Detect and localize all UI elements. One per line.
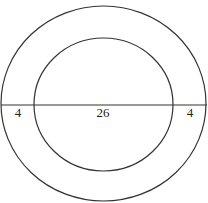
left-ring-width-label: 4 [15,105,22,120]
outer-circle [1,6,206,201]
inner-diameter-label: 26 [97,105,111,120]
right-ring-width-label: 4 [187,105,194,120]
concentric-circles-diagram: 4 26 4 [0,0,208,203]
